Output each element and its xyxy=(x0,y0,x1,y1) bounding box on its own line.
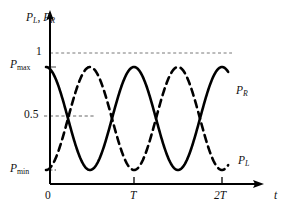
y-axis-title: PL, PR xyxy=(26,12,55,24)
curve-p-left xyxy=(46,67,228,170)
y-tick-label-1: 1 xyxy=(36,46,42,58)
x-tick-label-2T: 2T xyxy=(214,190,226,202)
x-axis-title: t xyxy=(274,190,277,202)
oscillation-plot xyxy=(0,0,288,211)
curve-label-p-right: PR xyxy=(236,85,248,97)
curve-label-p-left: PL xyxy=(238,155,249,167)
chart-figure: PL, PR t 1 0.5 Pmax Pmin 0 T 2T PR PL xyxy=(0,0,288,211)
x-tick-label-0: 0 xyxy=(45,190,51,202)
y-tick-label-0-5: 0.5 xyxy=(24,109,38,121)
y-tick-label-pmin: Pmin xyxy=(10,163,29,175)
y-tick-label-pmax: Pmax xyxy=(10,59,30,71)
x-tick-label-T: T xyxy=(130,190,136,202)
